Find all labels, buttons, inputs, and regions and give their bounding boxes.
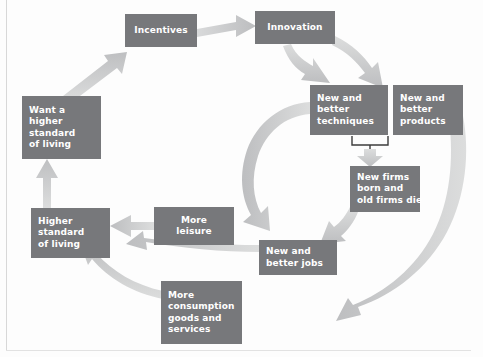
node-new-better-techniques-line-1: better (317, 104, 381, 116)
node-new-better-jobs-line-1: better jobs (266, 258, 330, 270)
arrow-new-firms-to-jobs (320, 207, 358, 244)
diagram-canvas: Incentives Innovation New and better tec… (0, 0, 483, 357)
arrow-techniques-to-more-leisure (242, 102, 310, 231)
arrow-bracket-to-new-firms (352, 136, 388, 167)
arrow-innovation-to-techniques (283, 44, 330, 83)
node-more-consumption-line-3: services (168, 324, 235, 336)
node-more-consumption[interactable]: More consumption goods and services (161, 281, 242, 344)
arrow-incentives-to-innovation (197, 15, 256, 37)
node-new-better-products-line-0: New and (400, 93, 456, 105)
node-want-higher-standard-line-3: of living (29, 139, 94, 151)
node-more-leisure[interactable]: More leisure (154, 207, 234, 245)
node-want-higher-standard-line-2: standard (29, 128, 94, 140)
node-want-higher-standard[interactable]: Want a higher standard of living (22, 96, 101, 159)
arrow-products-to-more-consumption (336, 116, 466, 321)
arrow-more-leisure-to-higher-standard (110, 215, 154, 237)
node-new-better-products-line-2: products (400, 116, 456, 128)
node-more-leisure-line-1: leisure (176, 226, 211, 238)
node-higher-standard-line-1: standard (38, 227, 103, 239)
node-new-better-jobs-line-0: New and (266, 246, 330, 258)
node-more-leisure-line-0: More (181, 215, 207, 227)
node-incentives[interactable]: Incentives (125, 14, 197, 47)
arrow-want-higher-to-incentives (63, 52, 127, 102)
node-new-better-products-line-1: better (400, 104, 456, 116)
node-new-better-techniques-line-0: New and (317, 93, 381, 105)
node-more-consumption-line-2: goods and (168, 313, 235, 325)
node-want-higher-standard-line-0: Want a (29, 105, 94, 117)
arrow-higher-to-want-higher (36, 159, 58, 208)
node-incentives-line-0: Incentives (134, 25, 187, 37)
node-new-better-products[interactable]: New and better products (393, 85, 463, 135)
node-higher-standard-line-0: Higher (38, 216, 103, 228)
arrow-innovation-to-products (332, 36, 383, 88)
node-innovation[interactable]: Innovation (255, 11, 335, 44)
node-new-better-techniques[interactable]: New and better techniques (310, 85, 388, 135)
node-new-better-jobs[interactable]: New and better jobs (259, 240, 337, 275)
node-more-consumption-line-1: consumption (168, 301, 235, 313)
node-new-firms-line-0: New firms (357, 172, 413, 184)
node-want-higher-standard-line-1: higher (29, 116, 94, 128)
node-new-firms-line-1: born and (357, 183, 413, 195)
node-new-firms[interactable]: New firms born and old firms die (350, 166, 420, 212)
node-innovation-line-0: Innovation (267, 22, 322, 34)
node-more-consumption-line-0: More (168, 290, 235, 302)
node-new-better-techniques-line-2: techniques (317, 116, 381, 128)
node-higher-standard-line-2: of living (38, 239, 103, 251)
node-higher-standard[interactable]: Higher standard of living (31, 208, 110, 258)
node-new-firms-line-2: old firms die (357, 195, 413, 207)
